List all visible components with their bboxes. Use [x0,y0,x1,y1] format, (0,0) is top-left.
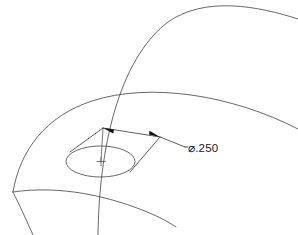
dimension-leader-line [160,137,185,147]
diameter-dimension-label: ⌀.250 [188,142,218,154]
drawing-svg: ⌀.250 [0,0,298,235]
outer-boundary-arc [98,6,298,235]
dimension-extension-left [70,128,103,152]
dimension-arrow-left-icon [103,128,114,133]
vertical-edge-curve [13,192,33,235]
bottom-boundary-arc [13,190,176,227]
hole-center-line [101,128,103,162]
technical-drawing-canvas: ⌀.250 [0,0,298,235]
dimension-extension-right [130,137,160,172]
